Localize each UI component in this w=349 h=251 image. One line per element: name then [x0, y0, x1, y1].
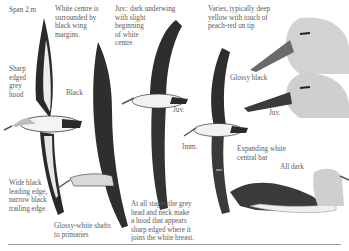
label-glossy-shafts: Glossy-white shafts to primaries [54, 222, 111, 239]
juvenile-underwing-bird [122, 20, 188, 210]
bottom-rule [8, 244, 341, 245]
label-glossy-black: Glossy black [230, 74, 267, 83]
label-hood-note: At all stages the grey head and neck mak… [131, 200, 194, 243]
label-bill-colour: Varies, typically deep yellow with touch… [208, 5, 270, 31]
swimming-bird [230, 169, 349, 213]
label-juv-1: Juv. [173, 106, 184, 115]
label-expanding-bar: Expanding white central bar [237, 145, 286, 162]
label-sharp-hood: Sharp edged grey hood [9, 65, 26, 99]
label-imm: Imm. [182, 143, 197, 152]
dark-juvenile-bird [58, 42, 128, 228]
label-juv-underwing: Juv.: dark underwing with slight beginni… [115, 5, 175, 48]
label-leading-edge: Wide black leading edge, narrow black tr… [9, 179, 47, 213]
label-white-centre: White centre is surrounded by black wing… [55, 5, 99, 39]
label-span: Span 2 m [9, 6, 36, 15]
label-juv-2: Juv. [269, 109, 280, 118]
label-black: Black [66, 89, 83, 98]
label-all-dark: All dark [280, 163, 304, 172]
